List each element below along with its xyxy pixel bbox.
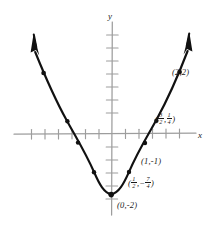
denominator: 2 — [158, 118, 163, 125]
point-dot-neg1-neg1 — [76, 140, 80, 144]
x-axis-label: x — [198, 131, 202, 140]
point-dot-neg0.5-neg1.75 — [92, 170, 96, 174]
graph-canvas — [0, 0, 219, 229]
y-axis — [106, 22, 118, 215]
point-dot-0.5-neg1.75 — [127, 170, 131, 174]
paren-close: ) — [134, 200, 137, 210]
paren-close: ) — [158, 156, 161, 166]
point-label-2-2: (2,2) — [172, 68, 189, 77]
fraction-1-over-2: 12 — [131, 176, 136, 190]
minus-sign: − — [139, 179, 145, 188]
point-label-3over2-1over4: (32,14) — [155, 112, 175, 126]
point-label-1over2-neg7over4: (12,−74) — [128, 176, 154, 190]
paren-close: ) — [151, 178, 154, 188]
x-axis — [14, 129, 196, 139]
y-axis-label: y — [108, 12, 112, 21]
denominator: 4 — [145, 182, 150, 189]
point-label-1-neg1: (1,-1) — [141, 157, 161, 166]
denominator: 2 — [131, 182, 136, 189]
point-dot-0-neg2 — [108, 192, 114, 198]
fraction-3-over-2: 32 — [158, 112, 163, 126]
paren-close: ) — [186, 67, 189, 77]
point-dot-neg2-2 — [41, 71, 46, 76]
point-label-0-neg2: (0,-2) — [117, 201, 137, 210]
paren-close: ) — [172, 114, 175, 124]
point-dot-1-neg1 — [143, 141, 147, 145]
point-dot-neg1.5-0.25 — [65, 119, 69, 123]
fraction-7-over-4: 74 — [145, 176, 150, 190]
